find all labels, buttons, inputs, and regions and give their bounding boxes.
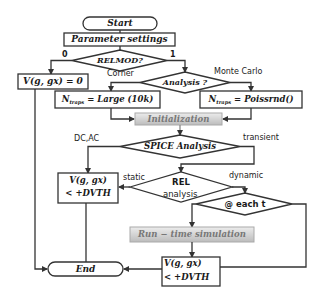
- v-dvth-bottom-label-line1: V(g, gx): [164, 259, 214, 268]
- ntraps-large-label: Ntraps = Large (10k): [55, 95, 160, 105]
- runtime-simulation-label: Run − time simulation: [130, 230, 254, 239]
- flowchart: Start Parameter settings RELMOD? 0 1 V(g…: [0, 0, 321, 295]
- each-t-label: @ each t: [215, 200, 275, 209]
- end-label: End: [48, 265, 123, 274]
- v-dvth-bottom-label-line2: < +DVTH: [164, 273, 218, 282]
- v-dvth-static-label-line2: < +DVTH: [58, 189, 118, 198]
- analysis-label: Analysis ?: [155, 78, 215, 86]
- rel-label-line2: analysis: [163, 189, 197, 199]
- ntraps-poissrnd-label: Ntraps = Poissrnd(): [200, 95, 302, 105]
- ntraps-poissrnd-value: = Poissrnd(): [231, 94, 293, 104]
- transient-label: transient: [243, 133, 279, 142]
- ntraps-subscript: traps: [216, 99, 231, 105]
- relmod-yes-label: 1: [170, 51, 176, 59]
- static-label: static: [123, 173, 145, 182]
- spice-analysis-label: SPICE Analysis: [135, 142, 225, 151]
- ntraps-subscript: traps: [69, 99, 84, 105]
- rel-label-line1: REL: [161, 178, 201, 187]
- ntraps-large-value: = Large (10k): [84, 94, 153, 104]
- v-zero-label: V(g, gx) = 0: [18, 77, 88, 86]
- dynamic-label: dynamic: [229, 171, 263, 180]
- monte-carlo-label: Monte Carlo: [214, 67, 262, 76]
- initialization-label: Initialization: [135, 115, 222, 124]
- relmod-label: RELMOD?: [90, 56, 150, 64]
- start-label: Start: [83, 19, 157, 28]
- relmod-no-label: 0: [62, 51, 68, 59]
- v-dvth-static-label-line1: V(g, gx): [58, 176, 118, 185]
- corner-label: Corner: [107, 69, 134, 78]
- parameter-settings-label: Parameter settings: [64, 35, 175, 44]
- dc-ac-label: DC,AC: [74, 134, 99, 143]
